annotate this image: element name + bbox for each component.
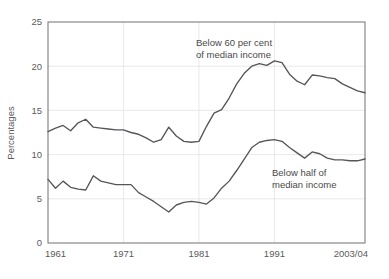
y-axis-tick-label: 10 (31, 149, 42, 160)
y-axis-tick-label: 5 (37, 193, 42, 204)
x-axis-tick-label: 1991 (264, 248, 285, 259)
x-axis-tick-label: 1961 (45, 248, 66, 259)
y-axis-tick-label: 0 (37, 237, 42, 248)
x-axis-tick-label: 1971 (113, 248, 134, 259)
series-annotation-label: Below half of (272, 167, 327, 178)
series-annotation-label: median income (272, 179, 336, 190)
y-axis-tick-label: 20 (31, 61, 42, 72)
x-axis-tick-label: 1981 (188, 248, 209, 259)
series-line (48, 61, 365, 142)
x-axis-tick-label: 2003/04 (334, 248, 368, 259)
x-axis-tick-labels: 19611971198119912003/04 (45, 248, 368, 259)
series-annotation-label: of median income (196, 49, 271, 60)
y-axis-tick-label: 15 (31, 105, 42, 116)
y-axis-title: Percentages (5, 106, 16, 160)
y-axis-tick-labels: 0510152025 (31, 16, 42, 248)
y-axis-tick-label: 25 (31, 16, 42, 27)
line-chart: 0510152025 19611971198119912003/04 Perce… (0, 0, 389, 279)
chart-container: 0510152025 19611971198119912003/04 Perce… (0, 0, 389, 279)
series-annotation-label: Below 60 per cent (196, 37, 272, 48)
annotations-group: Below 60 per centof median incomeBelow h… (196, 37, 336, 190)
